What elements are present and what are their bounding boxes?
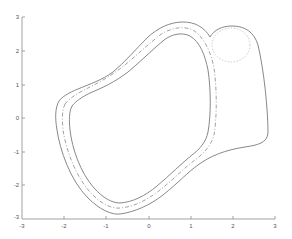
y-tick-label: 2	[16, 48, 20, 54]
chart: 3 2 1 0 -1 -2 -3 -3 -2 -1 0 1 2 3	[0, 0, 292, 239]
dotted-circle	[212, 28, 250, 62]
x-tick-label: 2	[231, 223, 235, 229]
y-tick-label: -1	[14, 149, 20, 155]
y-ticks: 3 2 1 0 -1 -2 -3	[14, 14, 25, 220]
x-tick-label: -1	[103, 223, 109, 229]
x-ticks: -3 -2 -1 0 1 2 3	[19, 216, 277, 229]
x-tick-label: -3	[19, 223, 25, 229]
outer-boundary-curve	[56, 22, 268, 214]
y-tick-label: -3	[14, 214, 20, 220]
x-tick-label: -2	[61, 223, 67, 229]
y-tick-label: 3	[16, 14, 20, 20]
inner-boundary-curve	[69, 34, 210, 203]
axes	[22, 17, 275, 219]
x-tick-label: 0	[147, 223, 151, 229]
y-tick-label: 1	[16, 82, 20, 88]
y-tick-label: 0	[16, 115, 20, 121]
y-tick-label: -2	[14, 182, 20, 188]
x-tick-label: 1	[189, 223, 193, 229]
x-tick-label: 3	[273, 223, 277, 229]
center-dashdot-curve	[62, 28, 216, 208]
